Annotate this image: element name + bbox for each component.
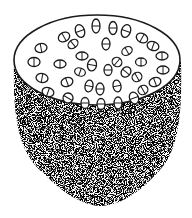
pore-icon xyxy=(104,65,112,76)
pore-icon xyxy=(102,38,110,50)
pore-icon xyxy=(76,52,88,60)
pore-icon xyxy=(96,83,104,95)
pore-icon xyxy=(156,52,168,60)
pore-icon xyxy=(28,58,40,67)
pore-icon xyxy=(114,97,122,109)
pore-icon xyxy=(109,22,117,35)
pore-icon xyxy=(97,99,105,110)
pore-icon xyxy=(81,98,89,109)
pore-icon xyxy=(92,19,100,33)
cylinder-drawing xyxy=(0,0,192,218)
pore-icon xyxy=(54,60,66,68)
pore-icon xyxy=(136,58,147,66)
illustration xyxy=(0,0,192,218)
pore-icon xyxy=(157,66,169,74)
